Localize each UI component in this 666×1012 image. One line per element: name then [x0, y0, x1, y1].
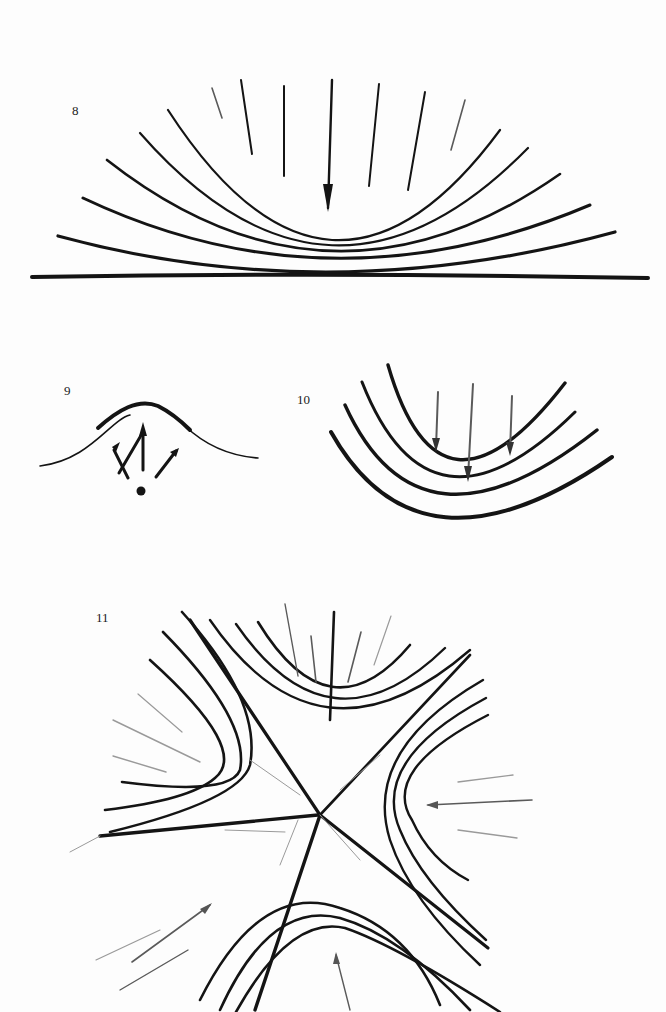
figure-11-faint-line	[280, 820, 298, 865]
figure-8-ray	[241, 80, 252, 154]
figure-8-diagram	[32, 80, 648, 278]
illustration-page: 8 9 10 11	[0, 0, 666, 1012]
figure-11-bottom-left-ray	[96, 930, 160, 960]
figure-11-bottom-curve-2	[220, 915, 470, 1010]
figure-11-right-curve-2	[394, 698, 486, 940]
figure-8-curve-2	[83, 198, 590, 258]
figure-8-ray	[212, 88, 222, 118]
figure-11-faint-line	[320, 815, 360, 860]
figure-10-arrow-right-head-icon	[506, 442, 514, 456]
figure-11-bottom-left-ray	[120, 950, 188, 990]
figure-11-bottom-arrow-head-icon	[333, 952, 340, 964]
figure-11-left-ray	[138, 694, 182, 732]
figure-9-arrow-center-head-icon	[139, 422, 147, 436]
figure-11-faint-line	[250, 760, 300, 795]
figure-11-top-ray	[374, 616, 391, 665]
figure-11-bottom-left-arrow-head-icon	[200, 903, 212, 914]
figure-10-arrow-center	[468, 384, 473, 478]
figure-8-ray	[408, 92, 425, 190]
figure-8-curve-4	[140, 133, 528, 245]
figure-11-bottom-left-arrow	[132, 905, 210, 962]
figure-9-arrow-right-shaft	[156, 451, 176, 477]
figure-11-top-ray	[348, 632, 361, 682]
figure-11-axis-d-tail	[70, 836, 100, 852]
figure-11-right-ray	[458, 775, 513, 782]
figure-8-arrow-head-icon	[323, 184, 333, 212]
figure-10-diagram	[331, 365, 612, 518]
illustrations-canvas	[0, 0, 666, 1012]
figure-9-source-dot-icon	[137, 487, 146, 496]
figure-8-ray	[369, 84, 379, 186]
figure-11-right-ray	[458, 830, 517, 838]
figure-11-right-arrow-head-icon	[426, 801, 438, 809]
figure-11-faint-line	[340, 755, 380, 790]
figure-11-right-arrow	[428, 800, 532, 805]
figure-11-axis-c	[255, 815, 320, 1010]
figure-11-top-arrow	[330, 612, 334, 720]
figure-11-right-curve-1	[405, 715, 488, 880]
figure-11-top-ray	[311, 636, 316, 682]
figure-9-hump-right	[185, 426, 258, 458]
figure-11-diagram	[70, 604, 532, 1012]
figure-9-diagram	[40, 403, 258, 495]
figure-10-arrow-center-head-icon	[464, 466, 472, 482]
figure-8-ray	[451, 100, 465, 150]
figure-11-faint-line	[225, 830, 285, 832]
figure-8-curve-5	[168, 110, 500, 240]
figure-11-left-ray	[113, 720, 200, 762]
figure-11-left-ray	[113, 756, 166, 772]
figure-8-baseline	[32, 275, 648, 278]
